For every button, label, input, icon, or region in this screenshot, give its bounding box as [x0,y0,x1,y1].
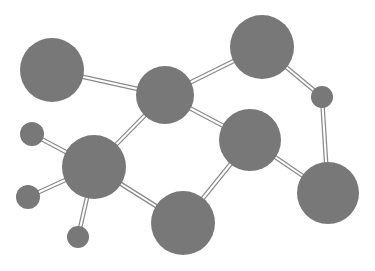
atom-node-G [62,135,126,199]
atom-node-A [20,38,84,102]
atom-group [16,15,359,255]
atom-node-K [67,226,89,248]
atom-node-F [297,162,359,224]
atom-node-H [151,191,215,255]
atom-node-J [16,185,40,209]
atom-node-C [230,15,294,79]
atom-node-D [311,86,333,108]
atom-node-E [219,109,281,171]
molecule-diagram [0,0,375,271]
atom-node-B [136,66,194,124]
atom-node-I [20,122,44,146]
